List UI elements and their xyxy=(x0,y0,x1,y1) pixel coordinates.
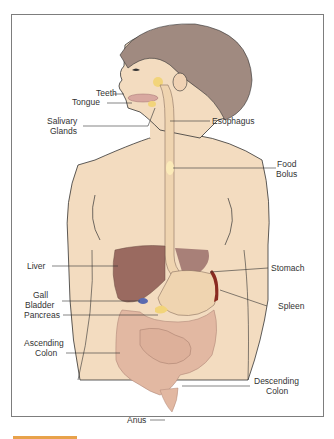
food-bolus xyxy=(166,161,174,175)
digestive-system-illustration xyxy=(0,0,334,439)
label-liver: Liver xyxy=(27,262,45,272)
label-ascending-colon-2: Colon xyxy=(35,349,57,359)
label-pancreas: Pancreas xyxy=(24,311,60,321)
label-salivary-glands-2: Glands xyxy=(50,127,77,137)
label-food-bolus-2: Bolus xyxy=(276,170,297,180)
label-descending-colon-2: Colon xyxy=(266,387,288,397)
label-spleen: Spleen xyxy=(278,302,304,312)
tongue xyxy=(128,94,158,102)
label-stomach: Stomach xyxy=(271,264,305,274)
label-esophagus: Esophagus xyxy=(212,117,255,127)
ear xyxy=(173,73,187,91)
label-tongue: Tongue xyxy=(72,98,100,108)
rectum xyxy=(160,388,178,412)
salivary-gland-sub xyxy=(148,101,156,107)
label-anus: Anus xyxy=(127,416,146,426)
